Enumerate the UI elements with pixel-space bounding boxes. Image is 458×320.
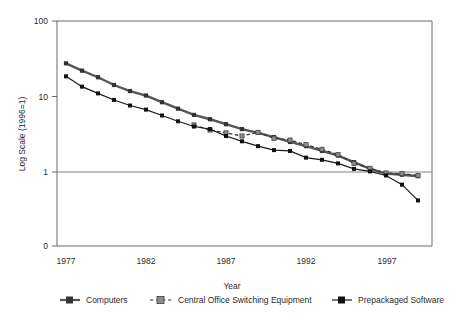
data-point-marker bbox=[288, 149, 292, 153]
data-point-marker bbox=[160, 100, 164, 104]
data-point-marker bbox=[352, 167, 356, 171]
data-point-marker bbox=[64, 74, 68, 78]
data-point-marker bbox=[192, 125, 196, 129]
data-point-marker bbox=[176, 119, 180, 123]
plot-frame bbox=[57, 21, 432, 246]
y-tick-label-0: 0 bbox=[43, 241, 48, 251]
legend-item-prepackaged-software[interactable]: Prepackaged Software bbox=[332, 295, 444, 305]
x-tick-label-1987: 1987 bbox=[217, 256, 236, 266]
data-point-marker bbox=[256, 144, 260, 148]
x-tick-label-1982: 1982 bbox=[137, 256, 156, 266]
series-central-office-switching-equipment bbox=[192, 123, 420, 178]
x-tick-label-1977: 1977 bbox=[57, 256, 76, 266]
data-point-marker bbox=[416, 173, 420, 177]
data-point-marker bbox=[192, 113, 196, 117]
data-point-marker bbox=[80, 85, 84, 89]
legend-label-prepackaged-software: Prepackaged Software bbox=[358, 295, 444, 305]
data-point-marker bbox=[128, 104, 132, 108]
data-point-marker bbox=[96, 75, 100, 79]
x-tick-label-1997: 1997 bbox=[378, 256, 397, 266]
data-point-marker bbox=[384, 173, 388, 177]
y-tick-label-100: 100 bbox=[34, 16, 48, 26]
data-point-marker bbox=[96, 91, 100, 95]
data-point-marker bbox=[416, 198, 420, 202]
data-point-marker bbox=[128, 89, 132, 93]
series-line-computers bbox=[66, 63, 418, 176]
data-point-marker bbox=[336, 153, 340, 157]
data-point-marker bbox=[64, 61, 68, 65]
data-point-marker bbox=[240, 134, 244, 138]
data-point-marker bbox=[144, 108, 148, 112]
data-point-marker bbox=[224, 122, 228, 126]
data-point-marker bbox=[176, 107, 180, 111]
data-point-marker bbox=[320, 158, 324, 162]
legend-item-central-office[interactable]: Central Office Switching Equipment bbox=[150, 295, 312, 305]
data-point-marker bbox=[208, 117, 212, 121]
legend-label-computers: Computers bbox=[86, 295, 128, 305]
data-point-marker bbox=[160, 114, 164, 118]
data-series-layer bbox=[64, 61, 420, 202]
chart-legend: Computers Central Office Switching Equip… bbox=[60, 295, 444, 305]
data-point-marker bbox=[80, 69, 84, 73]
data-point-marker bbox=[320, 147, 324, 151]
x-axis-title: Year bbox=[223, 281, 240, 291]
legend-marker-square-computers bbox=[66, 297, 73, 304]
data-point-marker bbox=[272, 148, 276, 152]
price-index-line-chart: 100 10 1 0 1977 1982 1987 1992 1997 Year… bbox=[0, 0, 458, 320]
data-point-marker bbox=[400, 183, 404, 187]
data-point-marker bbox=[304, 143, 308, 147]
data-point-marker bbox=[112, 98, 116, 102]
data-point-marker bbox=[352, 161, 356, 165]
data-point-marker bbox=[240, 127, 244, 131]
data-point-marker bbox=[272, 136, 276, 140]
data-point-marker bbox=[288, 138, 292, 142]
y-tick-label-1: 1 bbox=[43, 167, 48, 177]
data-point-marker bbox=[224, 134, 228, 138]
legend-label-central-office: Central Office Switching Equipment bbox=[178, 295, 312, 305]
y-tick-marks bbox=[52, 21, 57, 246]
data-point-marker bbox=[336, 161, 340, 165]
data-point-marker bbox=[368, 169, 372, 173]
x-tick-label-1992: 1992 bbox=[297, 256, 316, 266]
legend-marker-square-prepackaged bbox=[338, 297, 345, 304]
data-point-marker bbox=[400, 172, 404, 176]
data-point-marker bbox=[304, 156, 308, 160]
data-point-marker bbox=[240, 139, 244, 143]
data-point-marker bbox=[208, 127, 212, 131]
legend-item-computers[interactable]: Computers bbox=[60, 295, 128, 305]
legend-marker-square-central-office bbox=[157, 297, 164, 304]
data-point-marker bbox=[112, 83, 116, 87]
series-computers bbox=[64, 61, 420, 178]
data-point-marker bbox=[144, 93, 148, 97]
y-axis-title: Log Scale (1996=1) bbox=[17, 97, 27, 172]
data-point-marker bbox=[256, 130, 260, 134]
y-tick-label-10: 10 bbox=[39, 92, 49, 102]
chart-container: 100 10 1 0 1977 1982 1987 1992 1997 Year… bbox=[0, 0, 458, 320]
